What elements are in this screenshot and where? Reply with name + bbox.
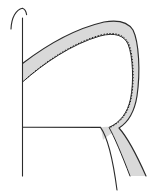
line-drawing-canvas (0, 0, 152, 193)
figure-root (0, 0, 152, 193)
band-inner-hatch-texture (26, 34, 133, 128)
top-arch-hook (11, 8, 27, 29)
band-shaded-region (23, 21, 147, 176)
